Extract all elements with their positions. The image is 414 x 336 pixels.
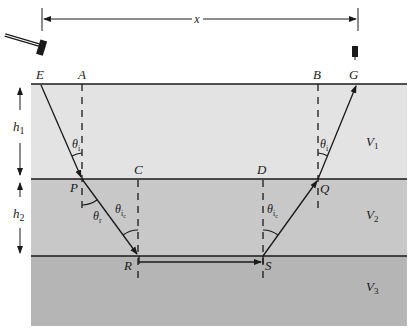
label-C: C (134, 162, 143, 177)
label-B: B (313, 67, 321, 82)
thickness-h1: h1 (13, 88, 25, 175)
thickness-h2: h2 (13, 183, 25, 253)
label-S: S (265, 258, 272, 273)
seismic-refraction-diagram: x h1 (0, 0, 414, 336)
svg-text:h1: h1 (13, 119, 25, 136)
label-E: E (35, 67, 44, 82)
layer-3 (31, 256, 407, 326)
hammer-icon (5, 35, 47, 56)
distance-label: x (193, 12, 200, 26)
label-G: G (349, 67, 359, 82)
label-A: A (77, 67, 86, 82)
distance-x-indicator: x (42, 8, 358, 31)
svg-text:h2: h2 (13, 206, 25, 223)
geophone-icon (352, 46, 358, 60)
label-P: P (69, 180, 78, 195)
label-R: R (123, 258, 132, 273)
label-Q: Q (320, 181, 330, 196)
layer-2 (31, 179, 407, 256)
label-D: D (256, 162, 267, 177)
